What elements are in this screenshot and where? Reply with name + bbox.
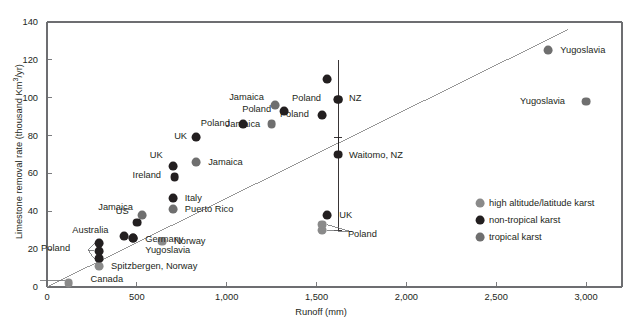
data-point bbox=[168, 161, 177, 170]
data-point bbox=[192, 158, 201, 167]
x-axis-title: Runoff (mm) bbox=[0, 307, 642, 317]
data-point-label: UK bbox=[339, 211, 352, 220]
y-tick-label: 80 bbox=[0, 131, 38, 141]
trend-line bbox=[47, 30, 568, 287]
label-leader-line bbox=[88, 250, 94, 259]
legend-marker bbox=[476, 233, 485, 242]
data-point bbox=[129, 233, 138, 242]
data-point bbox=[138, 211, 147, 220]
data-point bbox=[168, 205, 177, 214]
x-tick-label: 0 bbox=[44, 292, 49, 302]
data-point-label: UK bbox=[150, 151, 163, 160]
x-tick-label: 2,500 bbox=[485, 292, 508, 302]
data-point bbox=[95, 262, 104, 271]
data-point-label: Puerto Rico bbox=[185, 205, 234, 214]
data-point bbox=[271, 101, 280, 110]
y-tick-label: 20 bbox=[0, 244, 38, 254]
data-point-label: Poland bbox=[41, 244, 70, 253]
y-tick-label: 0 bbox=[0, 282, 38, 292]
label-leader-line bbox=[88, 243, 94, 250]
data-point-label: Yugoslavia bbox=[520, 97, 565, 106]
data-point bbox=[132, 218, 141, 227]
y-axis-title-superscript: 3 bbox=[12, 78, 19, 82]
y-tick-label: 40 bbox=[0, 206, 38, 216]
y-tick-label: 120 bbox=[0, 55, 38, 65]
data-point-label: Jamaica bbox=[229, 93, 264, 102]
y-axis-title-suffix: /yr) bbox=[14, 64, 24, 77]
data-point-label: Poland bbox=[292, 94, 321, 103]
data-point-label: Jamaica bbox=[226, 120, 261, 129]
data-point-label: Jamaica bbox=[208, 158, 243, 167]
data-point bbox=[170, 173, 179, 182]
data-point-label: UK bbox=[174, 132, 187, 141]
data-point bbox=[323, 211, 332, 220]
data-point bbox=[334, 95, 343, 104]
data-point bbox=[318, 110, 327, 119]
data-point-label: Poland bbox=[242, 105, 271, 114]
x-tick-label: 1,000 bbox=[215, 292, 238, 302]
legend-label: non-tropical karst bbox=[489, 215, 560, 225]
data-point bbox=[64, 279, 73, 288]
data-point bbox=[95, 254, 104, 263]
legend-label: high altitude/latitude karst bbox=[489, 198, 594, 208]
data-point bbox=[318, 220, 327, 229]
data-point bbox=[582, 97, 591, 106]
data-point-label: Italy bbox=[185, 194, 202, 203]
data-point bbox=[267, 120, 276, 129]
x-tick-label: 2,000 bbox=[395, 292, 418, 302]
x-tick-label: 500 bbox=[129, 292, 145, 302]
data-point-label: Ireland bbox=[133, 171, 161, 180]
data-point-label: Australia bbox=[72, 226, 108, 235]
data-point-label: Canada bbox=[91, 275, 124, 284]
data-point-label: Poland bbox=[348, 230, 377, 239]
data-point bbox=[544, 46, 553, 55]
data-point-label: Yugoslavia bbox=[560, 46, 605, 55]
data-point-label: Spitzbergen, Norway bbox=[111, 262, 197, 271]
data-point bbox=[334, 150, 343, 159]
data-point-label: NZ bbox=[349, 94, 361, 103]
legend-marker bbox=[476, 216, 485, 225]
x-tick-label: 1,500 bbox=[305, 292, 328, 302]
data-point bbox=[323, 74, 332, 83]
data-point bbox=[192, 133, 201, 142]
y-tick-label: 60 bbox=[0, 168, 38, 178]
y-tick-label: 100 bbox=[0, 93, 38, 103]
legend-marker bbox=[476, 199, 485, 208]
data-point bbox=[95, 247, 104, 256]
data-point-label: Jamaica bbox=[98, 203, 133, 212]
data-point bbox=[168, 194, 177, 203]
data-point bbox=[95, 239, 104, 248]
data-point-label: Poland bbox=[280, 110, 309, 119]
data-point-label: Germany bbox=[145, 235, 183, 244]
legend-label: tropical karst bbox=[489, 232, 542, 242]
data-point-label: Waitomo, NZ bbox=[349, 151, 403, 160]
x-tick-label: 3,000 bbox=[574, 292, 597, 302]
y-tick-label: 140 bbox=[0, 17, 38, 27]
data-point-label: Yugoslavia bbox=[145, 246, 190, 255]
data-point bbox=[120, 231, 129, 240]
